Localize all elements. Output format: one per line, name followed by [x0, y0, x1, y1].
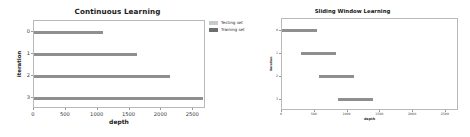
- x-tick-label: 2500: [186, 111, 199, 117]
- bar: [34, 31, 103, 34]
- x-tick-label: 1500: [122, 111, 135, 117]
- x-tick-label: 1000: [90, 111, 103, 117]
- y-axis-label-continuous-learning: iteration: [16, 51, 22, 77]
- x-axis-label-sliding-window-learning: depth: [364, 117, 375, 121]
- bar: [282, 29, 317, 32]
- x-tick-label: 0: [280, 112, 282, 116]
- y-tick-label: 2: [267, 74, 278, 78]
- plot-area-continuous-learning: [33, 20, 205, 108]
- chart-title-continuous-learning: Continuous Learning: [0, 7, 235, 16]
- x-tick-label: 500: [60, 111, 70, 117]
- y-tick-label: 1: [267, 51, 278, 55]
- y-tick-mark: [279, 99, 281, 100]
- x-tick-label: 1000: [342, 112, 350, 116]
- testing-set-swatch: [209, 21, 218, 25]
- training-set-swatch: [209, 28, 218, 32]
- bar: [319, 75, 354, 78]
- y-axis-label-sliding-window-learning: iteration: [269, 57, 273, 72]
- x-tick-label: 2000: [408, 112, 416, 116]
- bar: [301, 52, 336, 55]
- bar: [34, 97, 203, 100]
- y-tick-mark: [279, 76, 281, 77]
- figure-canvas: Continuous Learning 05001000150020002500…: [0, 0, 470, 137]
- legend-label: Testing set: [221, 21, 243, 25]
- y-tick-label: 3: [267, 97, 278, 101]
- legend-item: Testing set: [209, 21, 245, 25]
- bar: [338, 98, 373, 101]
- y-tick-mark: [279, 53, 281, 54]
- x-axis-label-continuous-learning: depth: [109, 118, 129, 125]
- x-tick-label: 0: [31, 111, 34, 117]
- y-tick-mark: [31, 31, 33, 32]
- y-tick-mark: [31, 53, 33, 54]
- y-tick-label: 3: [19, 94, 30, 100]
- y-tick-label: 0: [19, 28, 30, 34]
- x-tick-label: 1500: [375, 112, 383, 116]
- x-tick-label: 500: [311, 112, 317, 116]
- bar: [34, 75, 170, 78]
- x-tick-label: 2000: [154, 111, 167, 117]
- panel-continuous-learning: Continuous Learning 05001000150020002500…: [0, 0, 235, 137]
- panel-sliding-window-learning: Sliding Window Learning 0500100015002000…: [235, 0, 470, 137]
- chart-title-sliding-window-learning: Sliding Window Learning: [235, 8, 470, 14]
- legend-label: Training set: [221, 28, 245, 32]
- x-tick-label: 2500: [441, 112, 449, 116]
- legend-item: Training set: [209, 28, 245, 32]
- chart-legend: Testing setTraining set: [209, 21, 245, 32]
- bar: [34, 53, 137, 56]
- plot-area-sliding-window-learning: [281, 18, 458, 110]
- y-tick-mark: [31, 75, 33, 76]
- y-tick-mark: [31, 97, 33, 98]
- y-tick-label: 0: [267, 28, 278, 32]
- y-tick-mark: [279, 30, 281, 31]
